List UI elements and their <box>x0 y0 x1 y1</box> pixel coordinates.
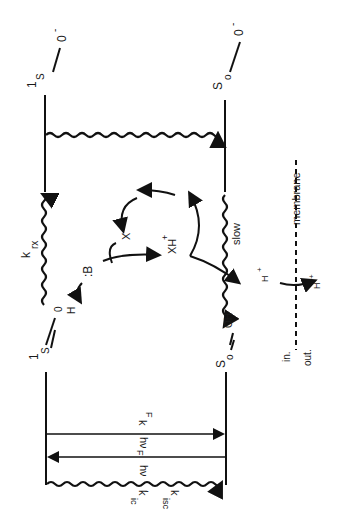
excited-o-label: 0 <box>53 306 64 312</box>
x-label: X <box>120 232 132 240</box>
state-group-o-top: 0 <box>55 35 69 42</box>
x-branch-curve <box>110 243 116 263</box>
state-label-so-top: S <box>211 82 225 90</box>
regen-top-arrow <box>140 190 175 195</box>
xh-plus-sign: + <box>160 235 170 240</box>
photochemistry-diagram: 1 S 0 - S o 0 - k rx 0 H :B X XH + slow … <box>0 0 360 514</box>
state-label-1s-bottom: 1 <box>27 353 41 360</box>
h-plus-in-sign: + <box>255 267 264 272</box>
kic-label: k <box>137 490 149 496</box>
base-attack-arrow <box>77 283 82 301</box>
h-plus-out-sign: + <box>307 274 316 279</box>
h-plus-in-label: H <box>260 276 270 283</box>
ground-state-anion-level <box>225 42 240 175</box>
kic-sub: ic <box>129 498 139 505</box>
wavy-decay-arrow-top <box>46 133 218 137</box>
hvf-sub: F <box>135 450 145 456</box>
excited-h-label: H <box>66 307 77 314</box>
krx-label: k <box>19 251 33 258</box>
out-label: out. <box>302 349 313 366</box>
state-label-so-bottom: S <box>214 360 228 368</box>
slow-wavy-arrow <box>223 195 227 325</box>
state-charge-top: - <box>49 29 60 32</box>
ground-oh-label: OH <box>223 313 234 328</box>
base-label: :B <box>81 266 95 277</box>
kf-sub: F <box>144 412 154 418</box>
state-group-o-right: 0 <box>232 29 246 36</box>
xh-return-arrow <box>190 194 199 256</box>
state-charge-right: - <box>227 23 238 26</box>
kf-label: k <box>137 420 149 426</box>
in-label: in. <box>281 351 292 362</box>
hv-label: hν <box>138 465 150 477</box>
proton-release-arrow <box>190 256 238 282</box>
state-sub-o-bottom: o <box>224 354 235 360</box>
state-label-1s-top: 1 <box>25 81 39 88</box>
state-sub-o-top: o <box>222 74 233 80</box>
kic-kisc-wavy-arrow <box>47 482 221 486</box>
krx-sub: rx <box>29 241 40 249</box>
state-sub-s-bottom: S <box>40 347 51 354</box>
kisc-sub: isc <box>161 498 171 509</box>
hvf-label: hν <box>138 437 150 449</box>
membrane-label: membrane <box>290 172 302 225</box>
excited-state-anion-level <box>45 48 60 175</box>
kisc-label: k <box>169 490 181 496</box>
krx-wavy-arrow <box>42 195 46 305</box>
regen-x-arrow <box>122 198 137 230</box>
state-sub-s-top: S <box>35 73 46 80</box>
h-plus-out-label: H <box>312 283 322 290</box>
slow-label: slow <box>230 223 242 245</box>
